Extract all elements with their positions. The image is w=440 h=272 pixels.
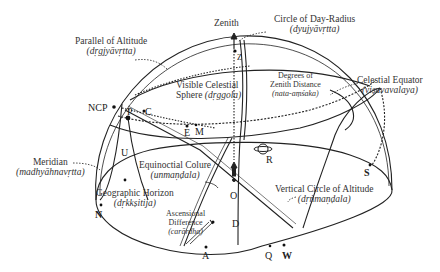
point-d: D: [232, 219, 239, 229]
point-a: A: [202, 251, 209, 261]
point-c: C: [145, 107, 152, 117]
point-r: R: [266, 155, 273, 165]
label-parallel-of-altitude: Parallel of Altitude (dṛgjyāvṛtta): [75, 36, 147, 57]
point-m: M: [195, 127, 204, 137]
point-n: N: [95, 210, 102, 220]
point-e: E: [184, 128, 190, 138]
celestial-sphere-diagram: Zenith Parallel of Altitude (dṛgjyāvṛtta…: [0, 0, 440, 272]
point-p: P: [127, 107, 133, 117]
label-geographic-horizon: Geographic Horizon (dṛkkṣitija): [96, 188, 174, 209]
point-u: U: [121, 148, 128, 158]
point-z: Z: [237, 54, 242, 62]
diagram-lines: [0, 0, 440, 272]
label-zenith: Zenith: [214, 18, 239, 28]
label-degrees-of-zenith-distance: Degrees of Zenith Distance (nata-aṃśaka): [270, 72, 321, 98]
label-circle-of-day-radius: Circle of Day-Radius (dyujyāvṛtta): [274, 14, 355, 35]
point-ncp: NCP: [88, 103, 107, 113]
label-celestial-equator: Celestial Equator (viṣuvavalaya): [357, 75, 423, 96]
point-w: W: [282, 251, 292, 261]
point-s: S: [364, 168, 370, 178]
point-o: O: [230, 191, 237, 201]
label-meridian: Meridian (madhyāhnavṛtta): [16, 157, 85, 178]
label-vertical-circle-of-altitude: Vertical Circle of Altitude (dṛṅmaṇḍala): [275, 184, 373, 205]
label-equinoctial-colure: Equinoctial Colure (unmaṇḍala): [139, 160, 211, 181]
label-ascensional-difference: Ascensional Difference (carārdha): [166, 210, 205, 236]
label-visible-celestial-sphere: Visible Celestial Sphere (dṛggola): [176, 80, 241, 101]
point-q: Q: [265, 251, 272, 261]
